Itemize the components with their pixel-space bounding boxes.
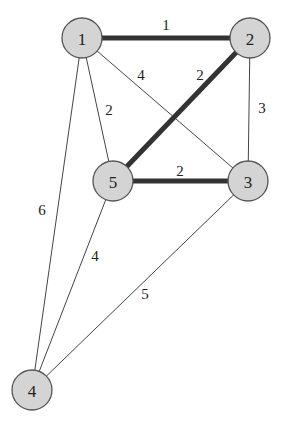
- edge-weight-2-3: 3: [258, 100, 266, 116]
- edge-2-5: [113, 38, 250, 181]
- weighted-graph-diagram: 142232645 12345: [0, 0, 283, 424]
- node-5: 5: [93, 161, 133, 201]
- node-3: 3: [228, 161, 268, 201]
- edge-weight-1-4: 6: [38, 202, 46, 218]
- node-1: 1: [62, 18, 102, 58]
- edge-weight-1-2: 1: [162, 17, 170, 33]
- edge-weight-2-5: 2: [196, 67, 204, 83]
- edge-weight-1-5: 2: [105, 102, 113, 118]
- node-label: 4: [28, 382, 37, 401]
- node-4: 4: [12, 370, 52, 410]
- edge-weight-1-3: 4: [137, 67, 145, 83]
- edge-3-4: [32, 181, 248, 390]
- node-2: 2: [230, 18, 270, 58]
- node-label: 5: [109, 173, 118, 192]
- edge-weight-5-4: 4: [91, 248, 99, 264]
- edge-weight-3-4: 5: [141, 286, 149, 302]
- node-label: 2: [246, 30, 255, 49]
- node-label: 3: [244, 173, 253, 192]
- edge-2-3: [248, 38, 250, 181]
- node-label: 1: [78, 30, 87, 49]
- edge-weight-5-3: 2: [176, 163, 184, 179]
- edges-layer: [32, 38, 250, 390]
